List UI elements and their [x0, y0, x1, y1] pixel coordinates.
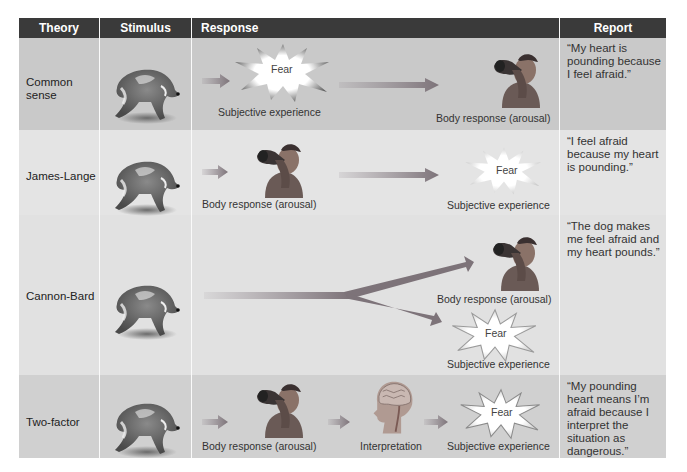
- header-response: Response: [192, 18, 559, 38]
- fear-label: Fear: [485, 327, 507, 339]
- caption-subjective-experience: Subjective experience: [447, 199, 550, 211]
- small-arrow-icon: [202, 165, 228, 179]
- caption-body-response: Body response (arousal): [202, 440, 316, 452]
- running-dog-icon: [105, 58, 185, 128]
- running-dog-icon: [105, 274, 185, 344]
- person-arousal-icon: [491, 231, 541, 291]
- column-divider: [559, 18, 560, 458]
- caption-body-response: Body response (arousal): [437, 293, 551, 305]
- column-divider: [191, 18, 192, 458]
- emotion-theories-table: Theory Stimulus Response Report Common s…: [19, 18, 666, 458]
- report-quote: “I feel afraid because my heart is pound…: [567, 135, 665, 174]
- caption-subjective-experience: Subjective experience: [218, 106, 321, 118]
- person-arousal-icon: [255, 378, 305, 438]
- small-arrow-icon: [424, 415, 448, 429]
- caption-subjective-experience: Subjective experience: [447, 358, 550, 370]
- caption-body-response: Body response (arousal): [436, 112, 550, 124]
- fear-label: Fear: [271, 63, 293, 75]
- theory-label: James-Lange: [26, 170, 96, 183]
- theory-label: Common sense: [26, 76, 86, 102]
- brain-head-icon: [368, 378, 414, 434]
- fear-label: Fear: [491, 406, 513, 418]
- header-theory: Theory: [19, 18, 99, 38]
- report-quote: “My pounding heart means I’m afraid beca…: [567, 380, 665, 458]
- header-stimulus: Stimulus: [100, 18, 191, 38]
- theory-label: Cannon-Bard: [26, 290, 98, 303]
- report-quote: “The dog makes me feel afraid and my hea…: [567, 220, 665, 259]
- running-dog-icon: [105, 392, 185, 462]
- small-arrow-icon: [328, 415, 350, 429]
- person-arousal-icon: [255, 138, 305, 198]
- caption-body-response: Body response (arousal): [202, 198, 316, 210]
- fear-label: Fear: [496, 164, 518, 176]
- long-arrow-icon: [339, 168, 439, 182]
- forked-arrow-icon: [204, 250, 474, 330]
- caption-subjective-experience: Subjective experience: [447, 440, 550, 452]
- theory-label: Two-factor: [26, 416, 96, 429]
- caption-interpretation: Interpretation: [360, 440, 422, 452]
- small-arrow-icon: [202, 74, 230, 88]
- column-divider: [99, 18, 100, 458]
- running-dog-icon: [105, 150, 185, 220]
- cropped-text-fragment: [520, 0, 680, 6]
- report-quote: “My heart is pounding because I feel afr…: [567, 42, 665, 81]
- small-arrow-icon: [202, 415, 228, 429]
- long-arrow-icon: [339, 78, 439, 92]
- person-arousal-icon: [492, 48, 542, 108]
- header-report: Report: [560, 18, 666, 38]
